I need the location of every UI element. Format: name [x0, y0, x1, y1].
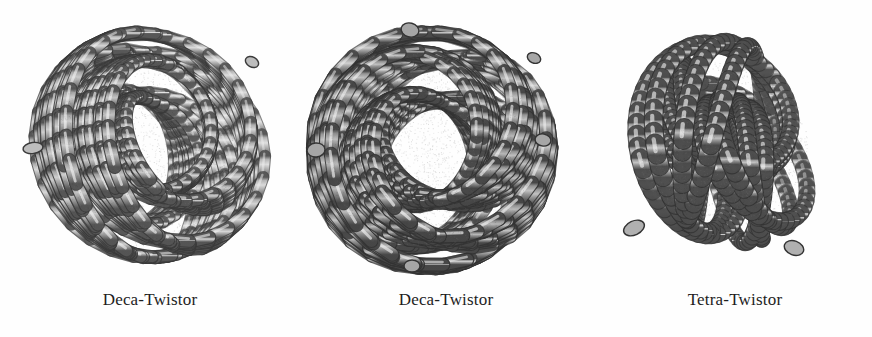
figure-panel-2: Deca-Twistor: [296, 0, 596, 337]
figure-1-artwork: [0, 0, 300, 290]
figure-3-caption: Tetra-Twistor: [598, 290, 872, 310]
figure-3-artwork: [598, 0, 872, 290]
deca-twistor-render-2: [296, 0, 596, 290]
deca-twistor-render-1: [0, 0, 300, 290]
figure-panel-3: Tetra-Twistor: [598, 0, 872, 337]
figure-plate: Deca-Twistor Deca-Twistor Tetra-Twistor: [0, 0, 872, 337]
figure-2-artwork: [296, 0, 596, 290]
figure-panel-1: Deca-Twistor: [0, 0, 300, 337]
figure-2-caption: Deca-Twistor: [296, 290, 596, 310]
figure-1-caption: Deca-Twistor: [0, 290, 300, 310]
tetra-twistor-render: [598, 0, 872, 290]
